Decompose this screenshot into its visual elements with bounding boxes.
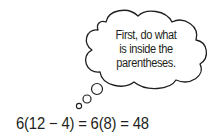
- thought-line-3: parentheses.: [106, 56, 187, 70]
- thought-bubble-text: First, do what is inside the parentheses…: [106, 28, 187, 70]
- thought-line-2: is inside the: [106, 42, 187, 56]
- thought-line-1: First, do what: [106, 28, 187, 42]
- equation: 6(12 − 4) = 6(8) = 48: [16, 114, 149, 133]
